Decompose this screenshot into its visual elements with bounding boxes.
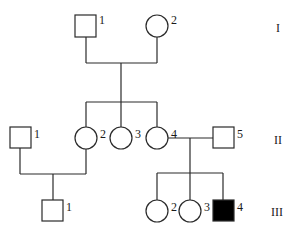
individual-III1-male xyxy=(42,200,63,221)
generation-label-II: II xyxy=(274,133,282,147)
label-III3: 3 xyxy=(204,200,210,214)
label-III1: 1 xyxy=(66,200,72,214)
mating-II1-II2 xyxy=(20,148,86,200)
generation-label-I: I xyxy=(276,21,280,35)
label-I2: 2 xyxy=(171,13,177,27)
label-II4: 4 xyxy=(171,127,177,141)
label-II2: 2 xyxy=(100,127,106,141)
individual-I1-male xyxy=(75,15,96,37)
individual-I2-female xyxy=(146,15,168,37)
individual-II5-male xyxy=(213,127,234,148)
mating-I1-I2 xyxy=(86,37,157,127)
generation-label-III: III xyxy=(271,205,283,219)
label-I1: 1 xyxy=(99,13,105,27)
label-III2: 2 xyxy=(171,200,177,214)
individual-III3-female xyxy=(179,200,201,222)
individual-II2-female xyxy=(75,127,97,149)
individual-II4-female xyxy=(146,127,168,149)
label-II5: 5 xyxy=(237,127,243,141)
label-II1: 1 xyxy=(34,127,40,141)
label-III4: 4 xyxy=(237,200,243,214)
individual-III4-male-affected xyxy=(213,200,234,221)
individual-II3-female xyxy=(110,127,132,149)
pedigree-chart: 1 2 1 2 3 4 5 1 2 3 4 I II III xyxy=(0,0,297,238)
individual-II1-male xyxy=(10,127,31,148)
individual-III2-female xyxy=(146,200,168,222)
label-II3: 3 xyxy=(135,127,141,141)
